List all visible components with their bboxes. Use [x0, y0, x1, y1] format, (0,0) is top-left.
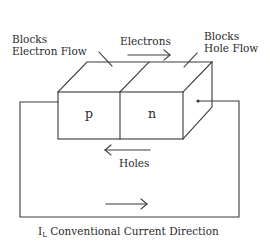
holes-arrow	[105, 145, 150, 155]
label-blocks-hole-line1: Blocks	[204, 30, 258, 42]
label-holes: Holes	[119, 157, 149, 169]
label-n-region: n	[148, 108, 156, 120]
label-blocks-electron: Blocks Electron Flow	[12, 33, 87, 57]
label-blocks-electron-line2: Electron Flow	[12, 45, 87, 57]
label-blocks-electron-line1: Blocks	[12, 33, 87, 45]
electrons-arrow	[128, 50, 170, 60]
tick-blocks-hole	[184, 53, 197, 67]
label-blocks-hole-line2: Hole Flow	[204, 42, 258, 54]
label-current-direction: IL Conventional Current Direction	[38, 225, 219, 241]
label-electrons: Electrons	[120, 35, 171, 47]
current-subscript: L	[42, 231, 47, 239]
tick-blocks-electron	[99, 52, 112, 66]
label-blocks-hole: Blocks Hole Flow	[204, 30, 258, 54]
current-caption: Conventional Current Direction	[50, 225, 219, 237]
label-p-region: p	[85, 108, 93, 120]
terminal-dot	[196, 99, 199, 102]
current-arrow	[106, 199, 147, 209]
junction-line-top	[120, 62, 149, 92]
